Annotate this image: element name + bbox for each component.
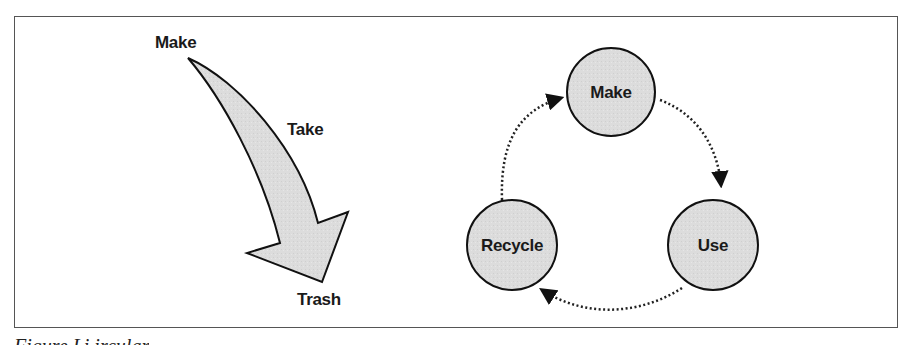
linear-trash-label: Trash bbox=[297, 290, 341, 309]
node-recycle-label: Recycle bbox=[481, 236, 543, 255]
diagram-canvas: Make Take Trash Make Use Recycle bbox=[0, 0, 911, 345]
node-make-label: Make bbox=[590, 83, 631, 102]
linear-take-label: Take bbox=[287, 120, 323, 139]
linear-make-label: Make bbox=[155, 33, 196, 52]
figure-caption: Figure Li ircular bbox=[14, 333, 149, 345]
node-recycle: Recycle bbox=[467, 200, 557, 290]
arrow-make-to-use bbox=[660, 100, 721, 185]
node-make: Make bbox=[567, 48, 655, 136]
node-use: Use bbox=[668, 200, 758, 290]
node-use-label: Use bbox=[698, 236, 728, 255]
arrow-use-to-recycle bbox=[542, 288, 682, 310]
arrow-recycle-to-make bbox=[502, 98, 561, 200]
linear-economy-arrow bbox=[188, 58, 348, 282]
